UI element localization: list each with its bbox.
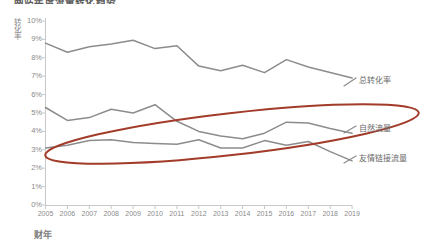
x-tick-2011: 2011 <box>169 210 184 217</box>
x-tick-2017: 2017 <box>301 210 317 217</box>
x-tick-2008: 2008 <box>103 210 119 217</box>
x-tick-2016: 2016 <box>279 210 295 217</box>
x-tick-2013: 2013 <box>213 210 229 217</box>
x-tick-2015: 2015 <box>257 210 273 217</box>
x-tick-2009: 2009 <box>125 210 141 217</box>
series-label-referral: 友情链接流量 <box>359 152 407 163</box>
x-tick-2019: 2019 <box>344 210 360 217</box>
series-label-total: 总转化率 <box>359 74 391 85</box>
x-tick-2018: 2018 <box>322 210 338 217</box>
x-tick-2014: 2014 <box>235 210 251 217</box>
x-tick-2010: 2010 <box>147 210 163 217</box>
x-tick-2006: 2006 <box>60 210 76 217</box>
series-label-organic: 自然流量 <box>359 122 391 133</box>
x-tick-2007: 2007 <box>82 210 98 217</box>
x-tick-2012: 2012 <box>191 210 207 217</box>
x-axis-title: 财年 <box>34 228 52 241</box>
x-tick-2005: 2005 <box>38 210 54 217</box>
chart-container: 网站年度流量转化趋势 转化率 10% 9% 8% 7% 6% 5% 4% 3% … <box>0 0 436 247</box>
